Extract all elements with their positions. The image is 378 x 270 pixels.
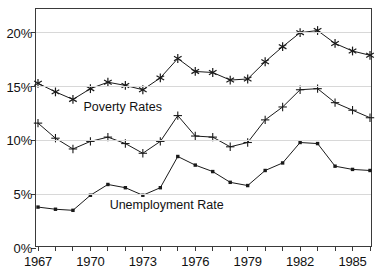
x-axis-label: 1973 [129, 255, 157, 268]
data-point-dot [176, 155, 179, 158]
data-point-dot [263, 169, 266, 172]
data-point-dot [36, 205, 39, 208]
data-point-dot [333, 164, 336, 167]
data-point-plus [86, 137, 94, 145]
data-point-dot [229, 181, 232, 184]
x-axis-tick [90, 246, 91, 251]
x-axis-label: 1967 [24, 255, 52, 268]
x-axis-tick [370, 246, 371, 251]
y-axis-label: 15% [0, 81, 32, 94]
data-point-plus [366, 114, 374, 122]
data-point-dot [159, 186, 162, 189]
x-axis-tick [282, 246, 283, 251]
data-point-dot [124, 186, 127, 189]
x-axis-tick [335, 246, 336, 251]
x-axis-tick [142, 246, 143, 251]
data-point-plus [156, 137, 164, 145]
data-point-dot [351, 168, 354, 171]
series-line-1 [38, 89, 370, 154]
x-axis-label: 1982 [286, 255, 314, 268]
unemployment-rate-label: Unemployment Rate [110, 199, 224, 212]
y-axis-label: 20% [0, 27, 32, 40]
x-axis-tick [352, 246, 353, 251]
x-axis-tick [160, 246, 161, 251]
x-axis-tick [230, 246, 231, 251]
x-axis-tick [72, 246, 73, 251]
data-point-asterisk [279, 42, 287, 51]
data-point-dot [281, 161, 284, 164]
x-axis-label: 1985 [338, 255, 366, 268]
data-point-asterisk [331, 39, 339, 48]
y-gridline [36, 86, 371, 87]
x-axis-tick [125, 246, 126, 251]
y-axis-label: 10% [0, 134, 32, 147]
data-point-asterisk [366, 51, 374, 60]
x-axis-label: 1979 [234, 255, 262, 268]
poverty-rates-label: Poverty Rates [83, 101, 162, 114]
data-point-asterisk [52, 87, 60, 96]
x-axis-tick [38, 246, 39, 251]
data-point-plus [261, 116, 269, 124]
y-gridline [36, 194, 371, 195]
plot-area: 0%5%10%15%20%196719701973197619791982198… [35, 8, 372, 247]
data-point-dot [211, 170, 214, 173]
data-point-dot [106, 183, 109, 186]
x-axis-label: 1976 [181, 255, 209, 268]
data-point-dot [246, 184, 249, 187]
x-axis-tick [195, 246, 196, 251]
data-point-plus [226, 143, 234, 151]
chart-canvas [36, 9, 373, 248]
x-axis-tick [300, 246, 301, 251]
data-point-dot [54, 208, 57, 211]
y-axis-label: 5% [0, 188, 32, 201]
x-axis-tick [55, 246, 56, 251]
x-axis-tick [265, 246, 266, 251]
x-axis-tick [317, 246, 318, 251]
x-axis-label: 1970 [76, 255, 104, 268]
y-gridline [36, 140, 371, 141]
data-point-dot [316, 142, 319, 145]
data-point-asterisk [69, 95, 77, 104]
data-point-plus [139, 149, 147, 157]
data-point-asterisk [349, 47, 357, 56]
x-axis-tick [247, 246, 248, 251]
chart-container: 0%5%10%15%20%196719701973197619791982198… [0, 0, 378, 270]
x-axis-tick [107, 246, 108, 251]
data-point-dot [298, 141, 301, 144]
data-point-dot [71, 209, 74, 212]
y-gridline [36, 32, 371, 33]
data-point-plus [69, 145, 77, 153]
data-point-dot [194, 163, 197, 166]
x-axis-tick [177, 246, 178, 251]
data-point-plus [348, 106, 356, 114]
x-axis-tick [212, 246, 213, 251]
data-point-dot [368, 169, 371, 172]
